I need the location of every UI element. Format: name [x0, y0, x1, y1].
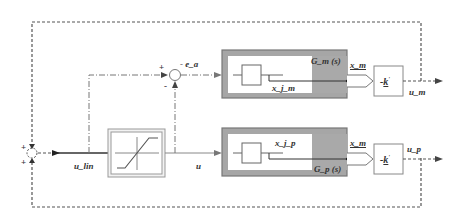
summation-circle: [170, 70, 181, 81]
plant-output-label: x_m: [350, 139, 366, 148]
gain-top-prime: ': [388, 76, 390, 82]
u-label: u: [196, 162, 201, 171]
plant-state-label: x_j_p: [275, 139, 296, 148]
model-inner-state-box: [242, 65, 261, 85]
real-plant-label: G_p (s): [314, 165, 341, 174]
left-sum-plus-bottom: +: [21, 158, 26, 167]
u-lin-label: u_lin: [74, 162, 94, 171]
model-state-label: x_j_m: [272, 84, 295, 93]
u-lin-arrow: [52, 150, 60, 156]
model-plant-label: G_m (s): [311, 57, 341, 66]
saturation-block[interactable]: [108, 129, 165, 177]
sum-plus-sign: +: [159, 63, 164, 72]
left-sum-junction: [27, 144, 37, 163]
u-m-label: u_m: [409, 88, 426, 97]
model-output-label: x_m: [350, 61, 366, 70]
sum-minus-arrow: [172, 81, 178, 88]
left-sum-plus-top: +: [21, 143, 26, 152]
error-label: - e_a: [180, 60, 198, 69]
block-diagram-canvas: [0, 0, 458, 223]
xm-bus-top: [347, 75, 373, 87]
gain-bottom-prime: ': [388, 154, 390, 160]
gain-top-label: -k': [380, 76, 390, 87]
error-arrow: [214, 72, 222, 78]
plant-inner-state-box: [242, 143, 261, 163]
u-arrow: [214, 150, 222, 156]
u-m-arrow: [435, 78, 443, 84]
u-p-arrow: [435, 156, 443, 162]
u-p-label: u_p: [407, 145, 421, 154]
sum-plus-arrow: [161, 72, 168, 78]
xm-bus-bottom: [347, 153, 373, 165]
gain-bottom-label: -k': [380, 154, 390, 165]
sum-minus-sign: -: [164, 82, 167, 91]
